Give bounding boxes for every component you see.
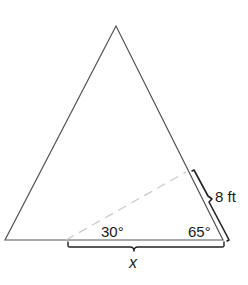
dashed-segment: [66, 172, 186, 240]
angle-label-right: 65°: [188, 223, 211, 240]
side-length-label: 8 ft: [215, 188, 237, 205]
base-unknown-label: x: [128, 254, 138, 271]
geometry-diagram: 30° 65° 8 ft x: [0, 0, 248, 285]
angle-label-left: 30°: [101, 223, 124, 240]
triangle-outline: [5, 26, 223, 240]
base-brace: [68, 242, 224, 251]
